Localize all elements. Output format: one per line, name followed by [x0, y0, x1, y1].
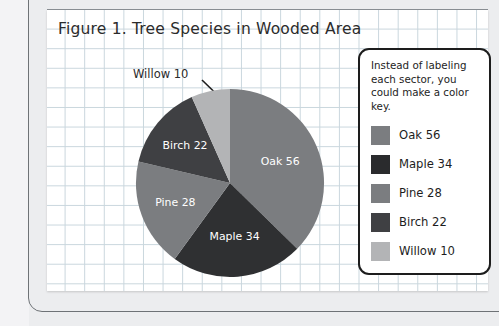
legend-item-label: Maple 34: [399, 157, 452, 171]
legend-color-swatch: [371, 155, 390, 174]
legend-callout-box: Instead of labeling each sector, you cou…: [358, 48, 491, 275]
legend-item: Maple 34: [371, 151, 479, 177]
legend-color-swatch: [371, 126, 390, 145]
pie-label-pine: Pine 28: [155, 196, 195, 209]
legend-item-label: Pine 28: [399, 186, 442, 200]
legend-note-text: Instead of labeling each sector, you cou…: [371, 59, 479, 113]
pie-chart-svg: Oak 56Maple 34Pine 28Birch 22: [135, 88, 325, 278]
willow-callout-label: Willow 10: [133, 67, 188, 81]
legend-item: Birch 22: [371, 209, 479, 235]
legend-color-swatch: [371, 242, 390, 261]
legend-item: Oak 56: [371, 122, 479, 148]
pie-chart: Oak 56Maple 34Pine 28Birch 22: [135, 88, 325, 278]
pie-slice-group: [136, 89, 324, 277]
legend-color-swatch: [371, 184, 390, 203]
legend-item-label: Birch 22: [399, 215, 447, 229]
chart-title: Figure 1. Tree Species in Wooded Area: [58, 20, 358, 38]
pie-label-maple: Maple 34: [210, 230, 260, 243]
pie-label-birch: Birch 22: [163, 139, 208, 152]
legend-item-label: Willow 10: [399, 244, 455, 258]
legend-item: Pine 28: [371, 180, 479, 206]
page-left-margin: [0, 0, 29, 326]
pie-label-oak: Oak 56: [261, 155, 300, 168]
legend-item-list: Oak 56Maple 34Pine 28Birch 22Willow 10: [371, 122, 479, 264]
legend-color-swatch: [371, 213, 390, 232]
legend-item-label: Oak 56: [399, 128, 440, 142]
legend-item: Willow 10: [371, 238, 479, 264]
